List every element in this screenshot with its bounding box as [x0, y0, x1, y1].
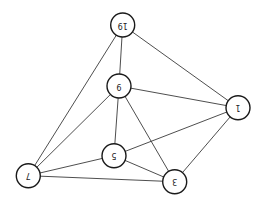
graph-diagram: 1991537	[0, 0, 266, 208]
node-label: 7	[26, 171, 31, 180]
node-7: 7	[16, 164, 40, 188]
node-9: 9	[107, 74, 131, 98]
edge-7-3	[28, 176, 174, 182]
graph-canvas: 1991537	[0, 0, 266, 208]
edge-5-7	[28, 156, 114, 176]
edge-1-5	[114, 108, 238, 156]
node-5: 5	[102, 144, 126, 168]
edge-9-3	[119, 86, 175, 182]
edge-19-1	[123, 25, 238, 108]
node-1: 1	[226, 96, 250, 120]
node-19: 19	[111, 13, 135, 37]
node-label: 3	[172, 177, 177, 186]
node-label: 9	[116, 82, 121, 91]
node-label: 1	[235, 103, 240, 112]
edge-9-1	[119, 86, 238, 108]
edges-layer	[28, 25, 238, 182]
node-label: 5	[111, 151, 116, 160]
node-3: 3	[163, 170, 187, 194]
edge-1-3	[175, 108, 238, 182]
node-label: 19	[118, 21, 128, 30]
